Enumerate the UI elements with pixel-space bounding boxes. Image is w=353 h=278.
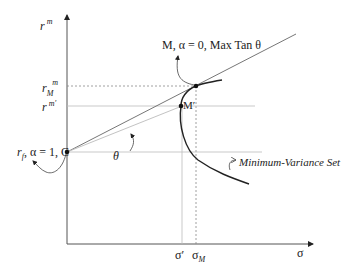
minvar-callout-arrow [229,160,236,170]
minimum-variance-curve [180,80,249,184]
minimum-variance-label: Minimum-Variance Set [238,156,341,168]
theta-label: θ [113,149,119,163]
point-m [194,84,199,89]
x-axis-label: σ [297,246,304,260]
point-m-label: M, α = 0, Max Tan θ [162,38,261,52]
line-to-m-prime [67,106,182,152]
y-tick-rM: rMm [42,78,58,98]
x-tick-sigmaM: σM [192,248,206,264]
point-c-label: rf, α = 1, C [17,145,69,161]
cml-diagram: rm rMm rm′ rf, α = 1, C M, α = 0, Max Ta… [0,0,353,278]
y-tick-rm-prime: rm′ [42,99,56,114]
x-tick-sigma-prime: σ′ [175,248,184,262]
y-axis-label: rm [40,17,53,33]
theta-arc-arrow [130,134,134,151]
point-m-prime-label: M′ [183,99,195,111]
m-callout-arrow [177,56,194,85]
